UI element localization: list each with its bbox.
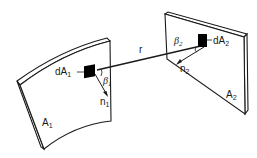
surface-a1 — [17, 38, 111, 149]
view-factor-diagram: dA1 dA2 r β1 β2 n1 n2 A1 A2 — [0, 0, 257, 158]
label-r: r — [139, 44, 143, 55]
element-da2 — [198, 34, 207, 47]
element-da1 — [84, 64, 95, 78]
